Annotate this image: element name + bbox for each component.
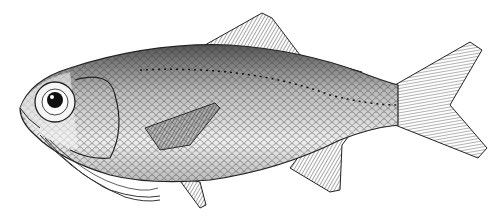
- fish-illustration: [0, 0, 503, 223]
- tail-fin: [395, 42, 487, 158]
- eye-pupil: [47, 92, 63, 108]
- ventral-fin: [178, 178, 206, 208]
